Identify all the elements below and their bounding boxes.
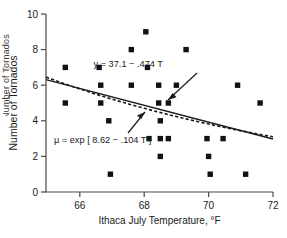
- data-point: [98, 100, 103, 105]
- data-point: [156, 83, 161, 88]
- linear-equation-annotation-text: y = 37.1 − .474 T: [94, 59, 164, 69]
- data-point: [106, 118, 111, 123]
- y-tick-label-6: 6: [32, 80, 38, 91]
- clipped-neighbor-axis-label: Number of Tornados: [0, 8, 11, 116]
- data-point: [183, 47, 188, 52]
- data-points-group: [63, 29, 263, 177]
- y-tick-label-0: 0: [32, 187, 38, 198]
- data-point: [129, 47, 134, 52]
- x-axis-title: Ithaca July Temperature, °F: [98, 215, 220, 226]
- data-point: [98, 83, 103, 88]
- data-point: [208, 172, 213, 177]
- data-point: [174, 83, 179, 88]
- data-point: [143, 29, 148, 34]
- data-point: [108, 172, 113, 177]
- y-tick-label-8: 8: [32, 44, 38, 55]
- data-point: [63, 65, 68, 70]
- scatter-plot-figure: 666870720246810Ithaca July Temperature, …: [0, 0, 287, 238]
- clipped-neighbor-axis-label-text: Number of Tornados: [1, 8, 11, 116]
- data-point: [243, 172, 248, 177]
- linear-equation-arrowhead: [168, 93, 177, 100]
- y-tick-label-2: 2: [32, 151, 38, 162]
- annotations-group: y = 37.1 − .474 Tµ = exp [ 8.62 − .104 T…: [54, 59, 197, 145]
- poisson-equation-annotation-text: µ = exp [ 8.62 − .104 T ]: [54, 135, 151, 145]
- data-point: [235, 83, 240, 88]
- y-tick-label-4: 4: [32, 115, 38, 126]
- x-tick-label-68: 68: [139, 200, 151, 211]
- y-tick-label-10: 10: [27, 9, 39, 20]
- data-point: [158, 136, 163, 141]
- x-axis-ticks: 66687072: [74, 192, 279, 211]
- data-point: [257, 100, 262, 105]
- x-tick-label-72: 72: [267, 200, 279, 211]
- data-point: [166, 100, 171, 105]
- data-point: [129, 83, 134, 88]
- y-axis-ticks: 0246810: [27, 9, 46, 198]
- data-point: [204, 136, 209, 141]
- poisson-equation-arrowhead: [137, 112, 145, 119]
- data-point: [206, 154, 211, 159]
- x-tick-label-70: 70: [203, 200, 215, 211]
- data-point: [63, 100, 68, 105]
- data-point: [158, 154, 163, 159]
- data-point: [166, 136, 171, 141]
- x-tick-label-66: 66: [74, 200, 86, 211]
- data-point: [220, 136, 225, 141]
- data-point: [158, 118, 163, 123]
- data-point: [156, 100, 161, 105]
